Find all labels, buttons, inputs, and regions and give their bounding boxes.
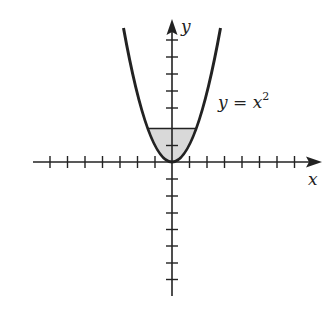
parabola-figure: y x y = x2 xyxy=(0,0,336,315)
curve-equation-exponent: 2 xyxy=(262,90,269,103)
y-axis-label: y xyxy=(180,16,191,36)
curve-equation-label: y = x2 xyxy=(217,90,269,112)
x-axis-label: x xyxy=(308,169,318,189)
curve-equation-text: y = x xyxy=(217,92,263,112)
